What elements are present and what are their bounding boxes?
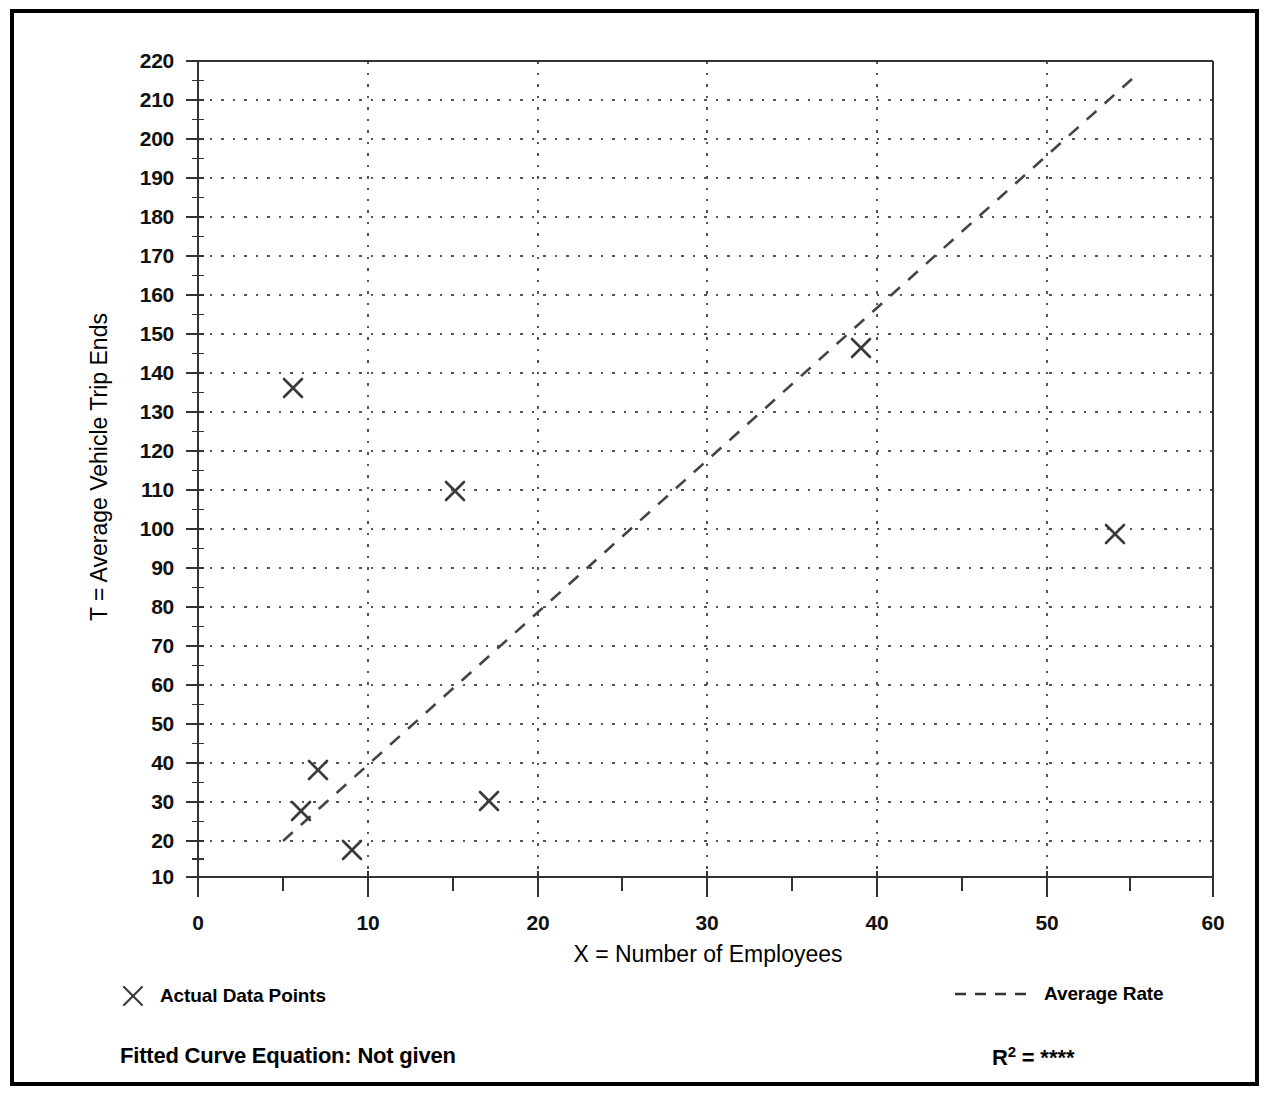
data-point	[284, 379, 302, 397]
x-tick-0: 0	[192, 911, 203, 935]
horizontal-gridlines	[198, 100, 1213, 841]
figure-container: 220 210 200 190 180 170 160 150 140 130 …	[14, 13, 1263, 1090]
legend-item-actual-data-points: Actual Data Points	[120, 983, 326, 1009]
y-axis-title: T = Average Vehicle Trip Ends	[86, 313, 113, 621]
y-tick-90: 90	[122, 556, 174, 580]
y-tick-70: 70	[122, 634, 174, 658]
y-tick-200: 200	[122, 127, 174, 151]
data-point	[446, 482, 464, 500]
r-squared-value: ****	[1040, 1045, 1074, 1070]
y-tick-10: 10	[122, 865, 174, 889]
y-tick-100: 100	[122, 517, 174, 541]
x-axis-title: X = Number of Employees	[498, 941, 918, 968]
data-point	[852, 339, 870, 357]
data-point	[292, 802, 310, 820]
fitted-curve-equation-note: Fitted Curve Equation: Not given	[120, 1043, 456, 1069]
y-tick-160: 160	[122, 283, 174, 307]
x-axis-major-ticks	[198, 868, 1213, 897]
y-tick-80: 80	[122, 595, 174, 619]
legend-item-average-rate: Average Rate	[954, 983, 1164, 1005]
plot-frame	[198, 61, 1213, 877]
y-tick-20: 20	[122, 829, 174, 853]
y-tick-130: 130	[122, 400, 174, 424]
data-point-markers	[284, 339, 1124, 859]
y-tick-40: 40	[122, 751, 174, 775]
r-squared-base: R	[992, 1045, 1008, 1070]
vertical-gridlines	[368, 61, 1047, 877]
data-point	[480, 792, 498, 810]
r-squared-equals: =	[1022, 1045, 1035, 1070]
y-tick-190: 190	[122, 166, 174, 190]
x-tick-60: 60	[1202, 911, 1225, 935]
y-tick-210: 210	[122, 88, 174, 112]
y-tick-60: 60	[122, 673, 174, 697]
data-point	[343, 841, 361, 859]
x-tick-20: 20	[527, 911, 550, 935]
x-tick-40: 40	[866, 911, 889, 935]
y-tick-220: 220	[122, 49, 174, 73]
x-tick-10: 10	[357, 911, 380, 935]
r-squared-exponent: 2	[1008, 1043, 1016, 1060]
dashed-line-icon	[954, 987, 1028, 1001]
scanned-page: 220 210 200 190 180 170 160 150 140 130 …	[0, 0, 1273, 1099]
x-tick-50: 50	[1036, 911, 1059, 935]
page-border: 220 210 200 190 180 170 160 150 140 130 …	[10, 9, 1259, 1086]
y-tick-30: 30	[122, 790, 174, 814]
y-tick-180: 180	[122, 205, 174, 229]
legend-label-average-rate: Average Rate	[1044, 983, 1164, 1005]
data-point	[309, 761, 327, 779]
x-tick-30: 30	[696, 911, 719, 935]
average-rate-line	[283, 79, 1132, 841]
y-tick-170: 170	[122, 244, 174, 268]
legend-label-actual-data-points: Actual Data Points	[160, 985, 326, 1007]
x-marker-icon	[120, 983, 146, 1009]
y-tick-50: 50	[122, 712, 174, 736]
r-squared-note: R2 = ****	[992, 1043, 1075, 1071]
y-tick-140: 140	[122, 361, 174, 385]
data-point	[1106, 525, 1124, 543]
y-tick-120: 120	[122, 439, 174, 463]
y-axis-major-ticks	[186, 61, 204, 877]
y-tick-110: 110	[122, 478, 174, 502]
y-tick-150: 150	[122, 322, 174, 346]
